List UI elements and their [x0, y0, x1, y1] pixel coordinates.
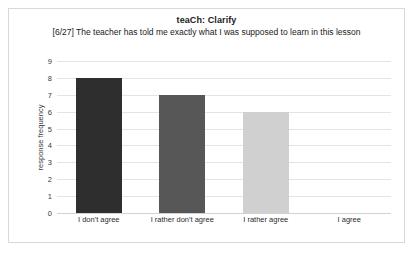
x-axis-tick-label: I don't agree: [78, 215, 119, 224]
bar[interactable]: [76, 78, 122, 213]
bar[interactable]: [243, 112, 289, 213]
chart-frame: teaCh: Clarify [6/27] The teacher has to…: [8, 8, 405, 243]
y-axis-tick-label: 6: [48, 107, 52, 116]
y-axis-tick-label: 5: [48, 124, 52, 133]
plot-wrapper: response frequency 0123456789 I don't ag…: [9, 9, 406, 242]
y-axis-tick-label: 0: [48, 209, 52, 218]
bar[interactable]: [159, 95, 205, 213]
bar-slot: [224, 61, 308, 213]
bar-slot: [141, 61, 225, 213]
y-axis-title-text: response frequency: [37, 104, 46, 170]
x-axis-tick-label: I rather agree: [243, 215, 288, 224]
y-axis-tick-label: 2: [48, 175, 52, 184]
bar-slot: [308, 61, 392, 213]
y-axis-tick-label: 1: [48, 192, 52, 201]
x-axis-tick-label: I rather don't agree: [151, 215, 214, 224]
y-axis-tick-label: 7: [48, 90, 52, 99]
y-axis-tick-label: 9: [48, 57, 52, 66]
y-axis-tick-label: 4: [48, 141, 52, 150]
y-axis-title: response frequency: [35, 61, 47, 213]
bar-slot: [57, 61, 141, 213]
y-axis-tick-label: 3: [48, 158, 52, 167]
y-axis-tick-label: 8: [48, 73, 52, 82]
plot-area: 0123456789: [57, 61, 391, 213]
gridline: 0: [57, 213, 391, 214]
bar-series: [57, 61, 391, 213]
x-axis-tick-label: I agree: [338, 215, 361, 224]
x-axis-labels: I don't agreeI rather don't agreeI rathe…: [57, 215, 391, 231]
